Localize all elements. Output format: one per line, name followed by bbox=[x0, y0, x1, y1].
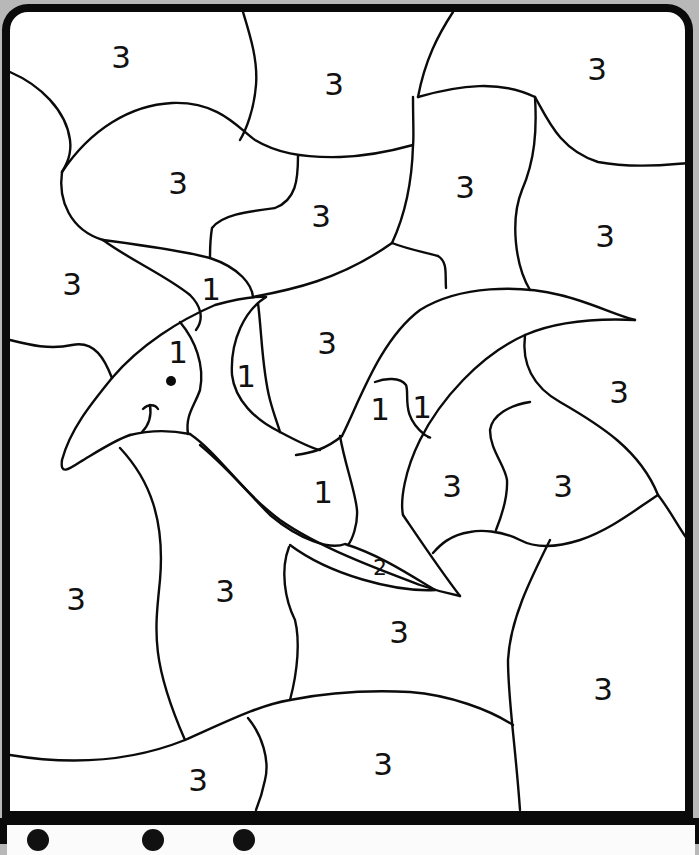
region-number: 3 bbox=[188, 765, 208, 796]
region-number: 3 bbox=[553, 471, 573, 502]
region-number: 3 bbox=[324, 69, 344, 100]
region-number: 3 bbox=[373, 749, 393, 780]
pterodactyl-eye bbox=[166, 376, 176, 386]
region-number: 3 bbox=[442, 471, 462, 502]
region-number: 3 bbox=[311, 201, 331, 232]
region-number: 1 bbox=[236, 361, 256, 392]
region-number: 3 bbox=[168, 168, 188, 199]
color-legend bbox=[0, 818, 699, 844]
legend-panel bbox=[7, 825, 695, 855]
region-number: 1 bbox=[412, 392, 432, 423]
region-number: 3 bbox=[595, 221, 615, 252]
region-number: 3 bbox=[389, 617, 409, 648]
region-number: 3 bbox=[215, 576, 235, 607]
region-number: 1 bbox=[370, 394, 390, 425]
region-number: 3 bbox=[587, 54, 607, 85]
region-number: 3 bbox=[593, 674, 613, 705]
legend-number-1-dot bbox=[27, 829, 49, 851]
legend-number-2-dot bbox=[142, 829, 164, 851]
region-number: 1 bbox=[313, 477, 333, 508]
region-number: 2 bbox=[373, 557, 387, 579]
region-number: 3 bbox=[609, 377, 629, 408]
legend-number-3-dot bbox=[233, 829, 255, 851]
region-number: 1 bbox=[201, 274, 221, 305]
region-number: 3 bbox=[455, 172, 475, 203]
region-number: 3 bbox=[317, 328, 337, 359]
region-number: 1 bbox=[168, 337, 188, 368]
region-number: 3 bbox=[66, 584, 86, 615]
region-number: 3 bbox=[111, 42, 131, 73]
region-number: 3 bbox=[62, 269, 82, 300]
